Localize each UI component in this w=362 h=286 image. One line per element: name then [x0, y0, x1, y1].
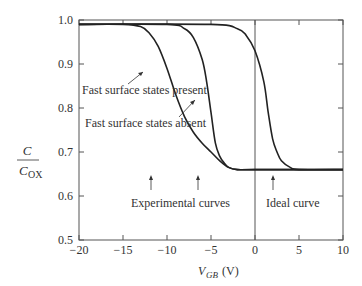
annotation-ideal: Ideal curve	[266, 196, 320, 210]
x-tick-label: 10	[337, 243, 349, 257]
cv-chart: 0.50.60.70.80.91.0 −20−15−10−50510 Fast …	[0, 0, 362, 286]
x-tick-label: 0	[252, 243, 258, 257]
x-tick-label: −15	[114, 243, 133, 257]
annotation-absent: Fast surface states absent	[85, 116, 207, 130]
y-tick-label: 0.7	[58, 145, 73, 159]
x-tick-label: −10	[158, 243, 177, 257]
x-label-sub: GB	[206, 270, 218, 280]
y-tick-label: 0.6	[58, 189, 73, 203]
y-tick-label: 1.0	[58, 13, 73, 27]
y-label-denominator-sub: OX	[28, 169, 43, 180]
y-tick-label: 0.8	[58, 101, 73, 115]
annotation-experimental: Experimental curves	[131, 196, 230, 210]
arrowhead-ideal	[271, 175, 275, 180]
y-label-numerator: C	[23, 143, 32, 158]
y-tick-label: 0.9	[58, 57, 73, 71]
x-tick-label: −20	[70, 243, 89, 257]
arrowhead-exp-1	[149, 175, 153, 180]
y-axis: 0.50.60.70.80.91.0	[58, 13, 343, 247]
x-tick-label: 5	[296, 243, 302, 257]
x-axis: −20−15−10−50510	[70, 20, 349, 257]
x-tick-label: −5	[205, 243, 218, 257]
series-line	[79, 24, 343, 170]
y-label-denominator: C	[19, 163, 28, 178]
annotation-present: Fast surface states present	[82, 83, 208, 97]
arrowhead-exp-2	[196, 175, 200, 180]
x-label-unit: (V)	[222, 264, 239, 278]
